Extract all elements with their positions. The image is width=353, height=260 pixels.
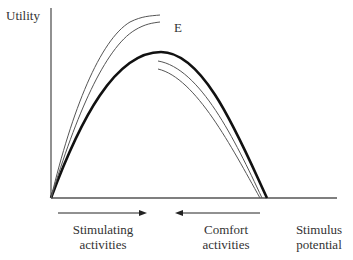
upper-curve-outer: [51, 15, 160, 198]
comfort-line2: activities: [188, 237, 264, 252]
x-axis-line2: potential: [286, 237, 352, 252]
stimulating-line2: activities: [60, 237, 146, 252]
comfort-activities-label: Comfort activities: [188, 222, 264, 252]
x-axis-line1: Stimulus: [286, 222, 352, 237]
lower-curve-inner: [158, 69, 260, 198]
stimulating-activities-label: Stimulating activities: [60, 222, 146, 252]
curve-label-e: E: [174, 20, 182, 35]
utility-diagram: [0, 0, 353, 260]
stimulating-line1: Stimulating: [60, 222, 146, 237]
right-arrowhead-icon: [139, 210, 147, 216]
lower-curve-outer: [158, 61, 262, 198]
left-arrowhead-icon: [175, 210, 183, 216]
main-utility-curve: [51, 52, 267, 198]
y-axis-label: Utility: [6, 8, 40, 23]
x-axis-label: Stimulus potential: [286, 222, 352, 252]
comfort-line1: Comfort: [188, 222, 264, 237]
